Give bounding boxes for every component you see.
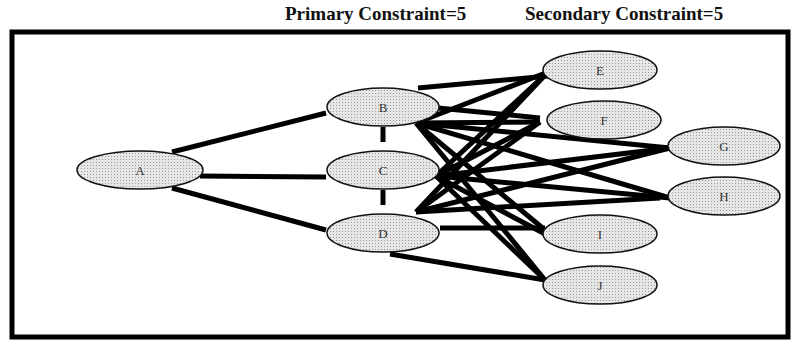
node-f: F <box>547 101 661 139</box>
node-e: E <box>543 51 657 89</box>
node-i: I <box>543 215 657 253</box>
node-label: H <box>719 189 728 204</box>
node-label: C <box>379 163 388 178</box>
node-d: D <box>327 214 439 252</box>
node-label: B <box>379 100 388 115</box>
node-label: I <box>598 227 602 242</box>
node-j: J <box>543 266 657 304</box>
edge <box>172 188 326 230</box>
node-a: A <box>77 151 203 189</box>
node-g: G <box>668 127 780 165</box>
node-c: C <box>327 151 439 189</box>
node-label: G <box>719 139 728 154</box>
edge <box>200 176 326 177</box>
edge <box>172 113 326 152</box>
network-diagram: ABCDEFGHIJ <box>0 0 796 349</box>
node-h: H <box>668 177 780 215</box>
node-label: A <box>135 163 145 178</box>
node-label: J <box>597 278 602 293</box>
node-label: F <box>600 113 607 128</box>
node-b: B <box>327 88 439 126</box>
node-label: E <box>596 63 604 78</box>
node-label: D <box>378 226 387 241</box>
